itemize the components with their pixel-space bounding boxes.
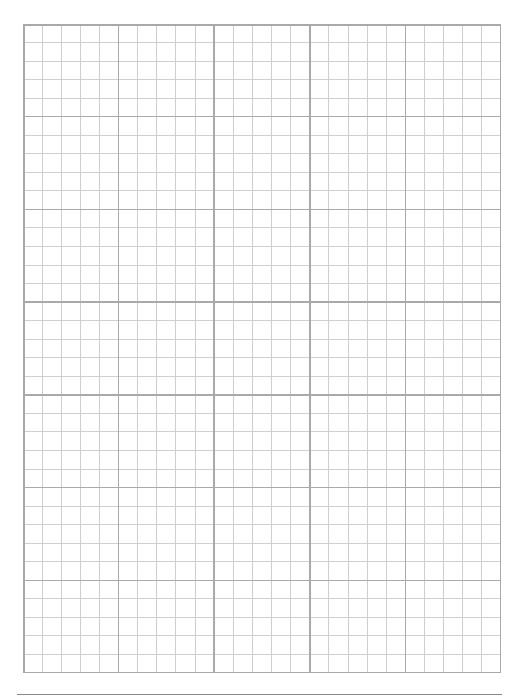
graph-grid	[23, 24, 501, 673]
graph-paper-page	[0, 0, 521, 699]
grid-lines	[23, 24, 501, 673]
bottom-rule-line	[17, 694, 502, 695]
